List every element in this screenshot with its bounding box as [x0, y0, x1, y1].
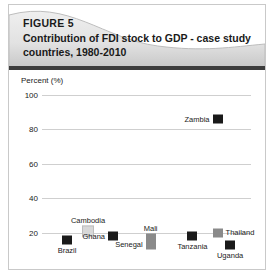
figure-card: FIGURE 5 Contribution of FDI stock to GD… — [8, 4, 266, 270]
data-point-marker — [62, 235, 72, 244]
data-point-marker — [187, 232, 197, 241]
y-axis-tick-label: 60 — [29, 159, 38, 168]
y-axis-tick-label: 100 — [25, 91, 38, 100]
figure-title: Contribution of FDI stock to GDP - case … — [23, 32, 255, 59]
y-axis-title: Percent (%) — [21, 76, 63, 85]
gridline: 60 — [42, 164, 251, 165]
figure-header-text: FIGURE 5 Contribution of FDI stock to GD… — [23, 17, 255, 59]
data-point-label: Zambia — [185, 115, 210, 124]
data-point-label: Uganda — [217, 250, 243, 259]
data-point-thailand[interactable]: Thailand — [213, 228, 223, 237]
data-point-label: Brazil — [58, 245, 77, 254]
data-point-tanzania[interactable]: Tanzania — [187, 232, 197, 241]
data-point-marker — [213, 228, 223, 237]
chart-body: Percent (%) 10080604020BrazilCambodiaGha… — [9, 70, 265, 269]
data-point-label: Mali — [144, 223, 158, 232]
data-point-label: Thailand — [226, 228, 255, 237]
y-axis-tick-label: 80 — [29, 125, 38, 134]
gridline: 100 — [42, 95, 251, 96]
data-point-marker — [213, 115, 223, 124]
y-axis-tick-label: 20 — [29, 228, 38, 237]
data-point-marker — [225, 240, 235, 249]
data-point-label: Ghana — [83, 232, 106, 241]
data-point-brazil[interactable]: Brazil — [62, 235, 72, 244]
gridline: 80 — [42, 129, 251, 130]
data-point-mali[interactable]: Mali — [146, 233, 156, 242]
figure-header-banner: FIGURE 5 Contribution of FDI stock to GD… — [9, 5, 265, 69]
data-point-uganda[interactable]: Uganda — [225, 240, 235, 249]
gridline: 40 — [42, 198, 251, 199]
y-axis-tick-label: 40 — [29, 194, 38, 203]
data-point-label: Cambodia — [71, 216, 105, 225]
data-point-label: Senegal — [115, 240, 143, 249]
plot-area: 10080604020BrazilCambodiaGhanaSenegalMal… — [42, 95, 251, 250]
data-point-label: Tanzania — [177, 242, 207, 251]
figure-number: FIGURE 5 — [23, 17, 255, 30]
data-point-zambia[interactable]: Zambia — [213, 115, 223, 124]
data-point-marker — [146, 233, 156, 242]
